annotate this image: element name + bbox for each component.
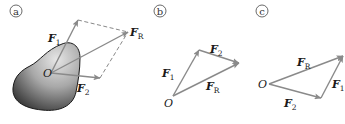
- panel-a-letter: a: [13, 6, 19, 17]
- panel-c-letter: c: [259, 6, 265, 17]
- label-f2-a: F2: [76, 82, 90, 97]
- origin-label-c: O: [258, 78, 267, 91]
- panel-b-badge: b: [154, 5, 166, 17]
- label-f1-c: F1: [331, 78, 345, 93]
- label-f1-b: F1: [161, 67, 175, 82]
- panel-a: a O F1 F2 FR: [10, 5, 144, 110]
- panel-c-badge: c: [256, 5, 268, 17]
- panel-c: c O F2 F1 FR: [256, 5, 345, 112]
- force-diagram: a O F1 F2 FR b O F1 F2 FR: [0, 0, 345, 124]
- label-fr-b: FR: [205, 80, 220, 95]
- label-fr-a: FR: [129, 26, 144, 41]
- panel-b-letter: b: [157, 6, 163, 17]
- panel-b: b O F1 F2 FR: [154, 5, 239, 110]
- parallelogram-dashed-lines: [78, 20, 128, 78]
- origin-label-a: O: [43, 67, 52, 80]
- label-f1-a: F1: [47, 32, 61, 47]
- panel-a-badge: a: [10, 5, 22, 17]
- origin-label-b: O: [164, 97, 173, 110]
- label-f2-c: F2: [283, 97, 297, 112]
- vector-f2-c: [269, 84, 321, 98]
- label-f2-b: F2: [209, 43, 223, 58]
- label-fr-c: FR: [296, 56, 311, 71]
